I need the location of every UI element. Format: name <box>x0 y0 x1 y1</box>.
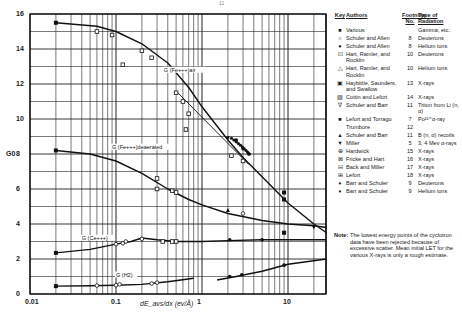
legend-authors: Lefort and Torrago <box>346 116 402 122</box>
data-marker-open-square <box>121 63 125 67</box>
x-tick-label: 0.1 <box>111 298 121 305</box>
legend-row: ▼Miller53, 4 Mev α-rays <box>334 140 462 146</box>
chart-plot-area: G (Fe+++)airG (Fe+++)deaeratedG (Ce+++)G… <box>0 0 334 320</box>
legend-row: ●Schuler and Allen8Helium ions <box>334 43 462 49</box>
legend-type: Deuterons <box>418 180 462 186</box>
legend-symbol-icon: ⊟ <box>334 164 346 170</box>
x-axis-title: dE_avs/dx (ev/Å) <box>140 300 193 307</box>
legend-type: X-rays <box>418 156 462 162</box>
legend-row: Trumbore12 <box>334 124 462 130</box>
legend-footnote: 14 <box>402 94 418 100</box>
legend-footnote: 11 <box>402 132 418 138</box>
data-marker-open-circle <box>114 242 118 246</box>
legend-authors: Barr and Schuler <box>346 188 402 194</box>
legend-symbol-icon: ■ <box>334 27 346 33</box>
legend-symbol-icon: ♦ <box>334 180 346 186</box>
data-marker-triangle-down <box>312 226 316 230</box>
legend-authors: Hart, Ramler, and Rocklin <box>346 65 402 78</box>
legend-authors: Hart, Ramler, and Rocklin <box>346 51 402 64</box>
data-marker-square <box>54 149 58 153</box>
data-marker-open-square <box>161 240 165 244</box>
legend-type: Helium ions <box>418 43 462 49</box>
legend-footnote: 11 <box>402 102 418 108</box>
legend-row: ⊟Back and Miller17X-rays <box>334 164 462 170</box>
legend-header-key: Key <box>334 12 346 25</box>
y-tick-label: 16 <box>16 10 24 17</box>
legend-symbol-icon: ■ <box>334 116 346 122</box>
y-tick-label: 2 <box>16 255 20 262</box>
legend-type: Po²¹⁰ α-ray <box>418 116 462 122</box>
legend-header-footnote: Footnote No. <box>402 12 418 25</box>
series-curve <box>56 278 194 286</box>
data-marker-open-circle <box>150 282 154 286</box>
x-tick-label: 1 <box>197 298 201 305</box>
note-label: Note: <box>334 232 350 258</box>
data-marker-open-square <box>187 112 191 116</box>
legend-type: Deuterons <box>418 51 462 57</box>
data-marker-open-square <box>181 100 185 104</box>
legend-header: Key Authors Footnote No. Type of Radiati… <box>334 12 462 25</box>
data-marker-open-square <box>140 49 144 53</box>
legend-type: X-rays <box>418 94 462 100</box>
legend-type: X-rays <box>418 164 462 170</box>
data-marker-open-square <box>170 189 174 193</box>
legend-row: ∇Schuler and Barr11Triton from Li (n, α) <box>334 102 462 115</box>
y-tick-label: 14 <box>16 45 24 52</box>
data-marker-open-square <box>230 154 234 158</box>
y-tick-label: 4 <box>16 220 20 227</box>
y-axis-title: G0 <box>6 150 15 157</box>
legend-type: Deuterons <box>418 35 462 41</box>
data-marker-triangle-up <box>226 208 230 212</box>
data-marker-open-circle <box>155 281 159 285</box>
legend-type: B (n, α) recoils <box>418 132 462 138</box>
data-marker-open-circle <box>118 283 122 287</box>
legend-footnote: 9 <box>402 180 418 186</box>
data-marker-square <box>54 21 58 25</box>
legend-symbol-icon: ● <box>334 43 346 49</box>
data-marker-open-square <box>184 128 188 132</box>
data-marker-open-square <box>174 240 178 244</box>
y-tick-label: 10 <box>16 115 24 122</box>
legend-header-type: Type of Radiation <box>418 12 462 25</box>
legend-type: X-rays <box>418 80 462 86</box>
data-marker-open-circle <box>140 237 144 241</box>
legend-authors: Cottin and Lefort <box>346 94 402 100</box>
legend-row: ■VariousGamma, etc. <box>334 27 462 33</box>
data-marker-filled-circle <box>282 263 286 267</box>
data-marker-open-square <box>174 91 178 95</box>
data-marker-filled-circle <box>228 275 232 279</box>
legend-authors: Hardwick <box>346 148 402 154</box>
legend-row: ⊞Lefort18X-rays <box>334 172 462 178</box>
legend-authors: Lefort <box>346 172 402 178</box>
legend-authors: Schuler and Allen <box>346 35 402 41</box>
data-marker-filled-circle <box>248 152 251 155</box>
legend-authors: Schuler and Barr <box>346 102 402 108</box>
legend-row: ▨Cottin and Lefort14X-rays <box>334 94 462 100</box>
data-marker-open-square <box>241 159 245 163</box>
legend-footnote: 10 <box>402 51 418 57</box>
legend-symbol-icon: ▣ <box>334 80 346 86</box>
legend-header-authors: Authors <box>346 12 402 25</box>
legend-footnote: 16 <box>402 156 418 162</box>
legend-row: ⊠Fricke and Hart16X-rays <box>334 156 462 162</box>
data-marker-open-square <box>174 191 178 195</box>
data-marker-open-circle <box>241 212 245 216</box>
legend-row: ■Lefort and Torrago7Po²¹⁰ α-ray <box>334 116 462 122</box>
legend-type: X-rays <box>418 172 462 178</box>
legend-authors: Back and Miller <box>346 164 402 170</box>
note-block: Note: The lowest energy points of the cy… <box>334 232 462 258</box>
legend-row: ○Schuler and Allen8Deuterons <box>334 35 462 41</box>
legend-symbol-icon: △ <box>334 65 346 71</box>
y-tick-label: 6 <box>16 185 20 192</box>
data-marker-open-circle <box>114 283 118 287</box>
legend-symbol-icon: ∇ <box>334 102 346 108</box>
data-marker-square <box>282 231 286 235</box>
data-marker-open-square <box>110 33 114 37</box>
series-curve <box>217 259 326 280</box>
data-marker-filled-circle <box>240 273 244 277</box>
legend-symbol-icon: ▲ <box>334 132 346 138</box>
data-marker-open-circle <box>124 240 128 244</box>
legend-type: Helium ions <box>418 188 462 194</box>
curve-label: G (Ce+++) <box>82 235 108 241</box>
data-marker-square <box>282 191 286 195</box>
